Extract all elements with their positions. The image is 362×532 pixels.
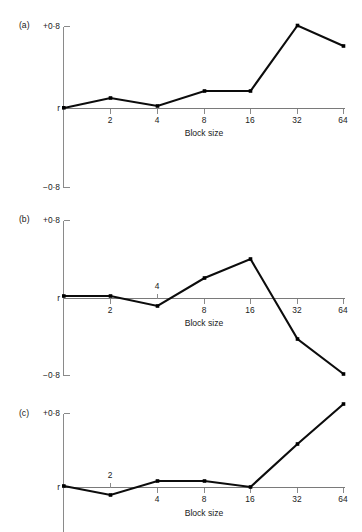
panel-a-ytick-zero: r [57, 103, 60, 113]
panel-a-ytick-top: +0·8 [43, 21, 60, 31]
panel-b-xtick-32: 32 [292, 305, 302, 315]
panel-b: (b) +0·8 r −0·8 2 4 8 16 32 64 Block s [19, 214, 348, 380]
panel-a-x-ticks [111, 109, 344, 114]
panel-a-xtick-4: 4 [155, 115, 160, 125]
panel-b-ytick-zero: r [57, 293, 60, 303]
panel-c-xtick-2: 2 [108, 470, 113, 480]
panel-a-data-markers [62, 24, 345, 110]
panel-b-ytick-top: +0·8 [43, 215, 60, 225]
panel-b-xtick-8: 8 [202, 305, 207, 315]
panel-c-ytick-top: +0·8 [43, 408, 60, 418]
panel-b-xtick-4: 4 [155, 281, 160, 291]
figure-container: (a) +0·8 r −0·8 2 4 8 [0, 0, 362, 532]
panel-b-ytick-bottom: −0·8 [43, 370, 60, 380]
panel-a-xtick-16: 16 [245, 115, 255, 125]
panel-a-data-line [64, 26, 344, 109]
multi-panel-line-chart: (a) +0·8 r −0·8 2 4 8 [0, 0, 362, 532]
panel-c-xtick-32: 32 [292, 494, 302, 504]
panel-a-ytick-bottom: −0·8 [43, 182, 60, 192]
panel-c-label: (c) [19, 408, 29, 418]
panel-a-x-axis-title: Block size [185, 128, 224, 138]
panel-a-xtick-64: 64 [338, 115, 348, 125]
panel-c-x-axis-title: Block size [185, 508, 224, 518]
panel-b-data-markers [62, 257, 345, 376]
panel-a: (a) +0·8 r −0·8 2 4 8 [19, 20, 348, 192]
panel-c-xtick-8: 8 [202, 494, 207, 504]
panel-b-xtick-16: 16 [245, 305, 255, 315]
panel-a-xtick-8: 8 [202, 115, 207, 125]
panel-b-x-axis-title: Block size [185, 318, 224, 328]
panel-b-label: (b) [19, 214, 30, 224]
panel-c-xtick-16: 16 [245, 494, 255, 504]
panel-c-xtick-64: 64 [338, 494, 348, 504]
panel-a-xtick-32: 32 [292, 115, 302, 125]
panel-c-data-markers [62, 402, 345, 497]
panel-c-ytick-zero: r [57, 482, 60, 492]
panel-b-xtick-64: 64 [338, 305, 348, 315]
panel-c: (c) +0·8 r 2 4 8 16 32 64 Block size [19, 402, 348, 532]
panel-a-label: (a) [19, 20, 30, 30]
panel-b-xtick-2: 2 [108, 305, 113, 315]
panel-c-xtick-4: 4 [155, 494, 160, 504]
panel-a-xtick-2: 2 [108, 115, 113, 125]
